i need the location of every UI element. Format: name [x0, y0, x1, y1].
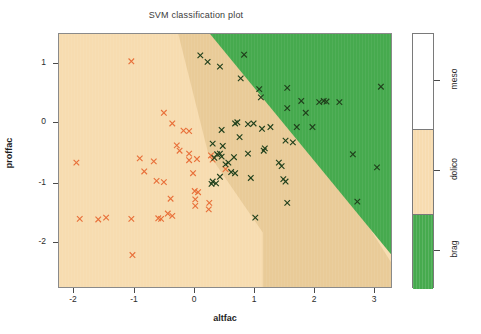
data-point-marker [310, 124, 316, 130]
data-point-marker [256, 86, 262, 92]
data-point-marker [168, 196, 174, 202]
data-point-marker [207, 200, 213, 206]
data-point-marker [217, 174, 223, 180]
data-point-marker [303, 110, 309, 116]
data-point-marker [248, 175, 254, 181]
svm-classification-plot: SVM classification plot altfac proffac -… [0, 0, 481, 334]
data-point-marker [161, 110, 167, 116]
y-tick-label: -1 [28, 177, 46, 187]
data-point-marker [194, 156, 200, 162]
data-point-marker [177, 148, 183, 154]
data-point-marker [245, 121, 251, 127]
x-tick-label: -1 [122, 294, 146, 304]
y-axis-title: proffac [4, 123, 14, 183]
data-point-marker [284, 105, 290, 111]
legend-band-separator [413, 214, 433, 215]
data-point-marker [161, 179, 167, 185]
legend-band-texture [413, 129, 433, 214]
y-tick-mark [53, 242, 58, 243]
data-point-marker [192, 203, 198, 209]
legend-band-separator [413, 129, 433, 130]
data-point-marker [223, 162, 229, 168]
y-tick-mark [53, 183, 58, 184]
data-point-marker [205, 59, 211, 65]
data-point-marker [251, 121, 257, 127]
legend-band-meso [413, 34, 433, 129]
data-point-marker [186, 157, 192, 163]
legend-label-brag: brag [449, 219, 459, 279]
x-tick-label: -2 [61, 294, 85, 304]
data-point-marker [212, 155, 218, 161]
data-point-marker [95, 217, 101, 223]
data-point-marker [245, 151, 251, 157]
x-tick-mark [73, 288, 74, 293]
x-tick-mark [374, 288, 375, 293]
y-tick-label: 0 [28, 116, 46, 126]
y-tick-mark [53, 63, 58, 64]
data-point-marker [181, 128, 187, 134]
legend-color-bar [412, 33, 434, 288]
legend-band-brag [413, 214, 433, 289]
x-tick-mark [314, 288, 315, 293]
data-point-marker [151, 159, 157, 165]
data-point-marker [174, 143, 180, 149]
x-tick-label: 3 [362, 294, 386, 304]
data-point-marker [206, 207, 212, 213]
data-point-marker [186, 151, 192, 157]
data-point-marker [259, 126, 265, 132]
data-point-marker [217, 64, 223, 70]
data-point-marker [219, 127, 225, 133]
x-tick-mark [194, 288, 195, 293]
data-point-marker [283, 138, 289, 144]
y-tick-mark [53, 122, 58, 123]
data-point-marker [279, 163, 285, 169]
data-point-marker [283, 179, 289, 185]
data-point-marker [337, 99, 343, 105]
data-point-marker [129, 58, 135, 64]
y-tick-label: -2 [28, 236, 46, 246]
series-brag [198, 52, 384, 220]
data-point-marker [235, 120, 241, 126]
data-point-marker [137, 156, 143, 162]
data-point-marker [258, 95, 264, 101]
legend-band-texture [413, 214, 433, 289]
data-point-marker [192, 197, 198, 203]
x-tick-label: 2 [302, 294, 326, 304]
x-tick-label: 1 [242, 294, 266, 304]
data-point-marker [284, 85, 290, 91]
data-point-marker [170, 121, 176, 127]
data-point-marker [186, 128, 192, 134]
data-point-marker [190, 170, 196, 176]
data-point-marker [284, 200, 290, 206]
x-tick-mark [254, 288, 255, 293]
data-point-marker [268, 124, 274, 130]
legend-tick-mark [434, 250, 440, 251]
data-point-marker [237, 134, 243, 140]
data-points-layer [59, 34, 391, 287]
legend-label-meso: meso [449, 49, 459, 109]
data-point-marker [141, 169, 147, 175]
plot-title: SVM classification plot [0, 10, 392, 20]
data-point-marker [223, 166, 229, 172]
legend-band-dolico [413, 129, 433, 214]
x-tick-mark [134, 288, 135, 293]
plot-area [58, 33, 392, 288]
data-point-marker [77, 216, 83, 222]
data-point-marker [130, 252, 136, 258]
legend-label-dolico: dolico [449, 139, 459, 199]
data-point-marker [298, 98, 304, 104]
data-point-marker [103, 215, 109, 221]
x-axis-title: altfac [58, 313, 392, 323]
data-point-marker [316, 99, 322, 105]
data-point-marker [129, 216, 135, 222]
data-point-marker [231, 154, 237, 160]
data-point-marker [198, 53, 204, 59]
data-point-marker [210, 141, 216, 147]
y-tick-label: 1 [28, 57, 46, 67]
data-point-marker [253, 215, 259, 221]
data-point-marker [241, 52, 247, 58]
series-dolico [74, 58, 229, 257]
data-point-marker [294, 124, 300, 130]
data-point-marker [74, 160, 80, 166]
data-point-marker [154, 178, 160, 184]
